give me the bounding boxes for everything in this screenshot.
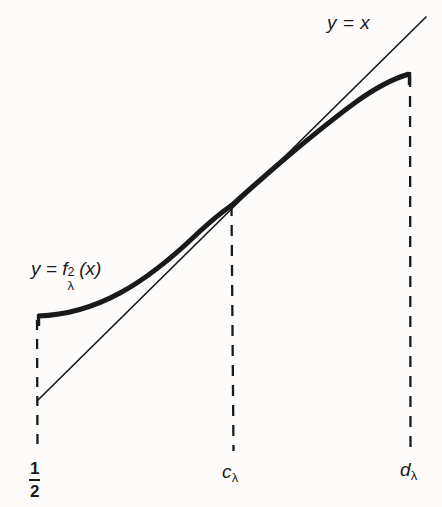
- tick-label-d-lambda: dλ: [400, 460, 417, 479]
- label-identity-x: x: [360, 12, 370, 33]
- label-curve-equals: =: [46, 258, 57, 279]
- tick-d-subscript-lambda: λ: [411, 468, 417, 483]
- tick-c-subscript-lambda: λ: [232, 470, 238, 485]
- figure-plot-svg: [0, 0, 442, 507]
- figure-canvas: y = x y = f2λ(x) 1 2 cλ dλ: [0, 0, 442, 507]
- dashed-line-d-lambda: [410, 76, 411, 451]
- tick-c-base: c: [222, 461, 232, 482]
- label-curve-subscript-lambda: λ: [67, 280, 73, 293]
- tick-d-base: d: [400, 459, 411, 480]
- label-curve-function: y = f2λ(x): [31, 259, 101, 278]
- label-curve-argument: (x): [79, 258, 101, 279]
- dashed-line-half: [37, 320, 38, 451]
- dashed-line-c-lambda: [232, 205, 234, 451]
- fraction-one-half: 1 2: [29, 460, 40, 501]
- fraction-bar: [29, 479, 40, 481]
- label-identity-equals: =: [343, 12, 355, 33]
- label-identity-y: y: [327, 12, 337, 33]
- fraction-denominator: 2: [29, 482, 40, 500]
- label-identity-line: y = x: [327, 13, 370, 32]
- fraction-numerator: 1: [29, 460, 40, 478]
- tick-label-c-lambda: cλ: [222, 462, 238, 481]
- curve-f-lambda-squared: [38, 74, 409, 316]
- tick-label-half: 1 2: [29, 460, 40, 501]
- label-curve-exponent: 2: [67, 266, 74, 279]
- identity-line-y-equals-x: [38, 17, 426, 400]
- label-curve-y: y: [31, 258, 41, 279]
